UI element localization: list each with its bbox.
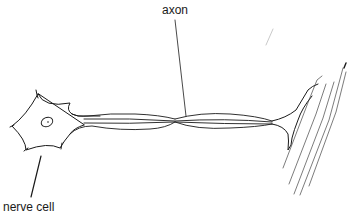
muscle-fibres <box>283 63 346 195</box>
cell-body <box>10 90 100 151</box>
neuron-diagram: axon nerve cell <box>0 0 352 215</box>
neuron-drawing <box>0 0 352 215</box>
nerve-cell-leader-line <box>31 156 41 197</box>
nerve-cell-label: nerve cell <box>3 201 54 213</box>
axon-label: axon <box>162 4 188 16</box>
nucleus <box>40 115 55 128</box>
nucleolus <box>47 121 49 123</box>
faint-mark <box>266 29 273 45</box>
axon-leader-line <box>175 20 186 116</box>
axon <box>70 114 272 134</box>
